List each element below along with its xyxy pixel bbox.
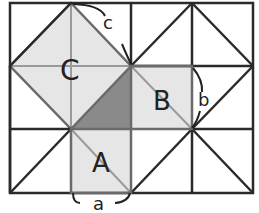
label-square-c: C — [60, 54, 80, 87]
label-side-a: a — [93, 193, 104, 213]
label-square-a: A — [92, 148, 110, 178]
label-square-b: B — [153, 86, 171, 116]
label-side-c: c — [103, 12, 113, 33]
pythagorean-diagram: C B A c b a — [0, 0, 259, 213]
label-side-b: b — [198, 89, 209, 110]
